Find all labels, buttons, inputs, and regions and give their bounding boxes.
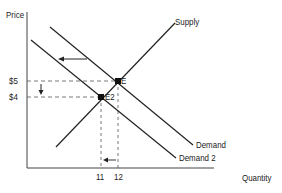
tick-qty-11: 11 — [96, 172, 104, 182]
chart-plot — [0, 0, 282, 193]
supply-label: Supply — [175, 17, 199, 27]
supply-line — [56, 23, 175, 147]
demand-label: Demand — [196, 140, 226, 150]
tick-price-5: $5 — [9, 76, 18, 86]
supply-demand-chart: Price Supply $5 $4 E E2 Demand Demand 2 … — [0, 0, 282, 193]
arrow-down-icon — [39, 90, 44, 95]
tick-price-4: $4 — [9, 92, 18, 102]
demand-line — [50, 27, 193, 145]
x-axis-label: Quantity — [242, 173, 272, 183]
arrow-left-icon — [58, 57, 64, 62]
arrow-left-icon — [103, 158, 108, 163]
equilibrium-e2-label: E2 — [105, 92, 115, 102]
equilibrium-e-label: E — [121, 76, 126, 86]
demand2-label: Demand 2 — [179, 153, 216, 163]
y-axis-label: Price — [6, 10, 24, 20]
tick-qty-12: 12 — [114, 172, 123, 182]
equilibrium-e2-marker — [98, 94, 104, 100]
